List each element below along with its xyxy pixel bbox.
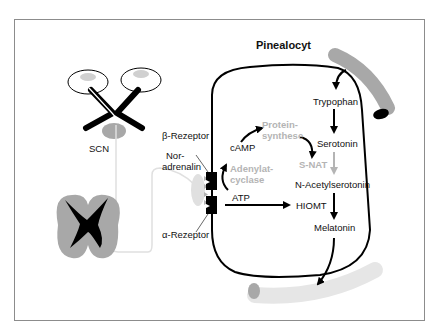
beta-receptor-label: β-Rezeptor [162, 130, 209, 141]
nerve-terminal-icon [191, 174, 205, 206]
proteinsynthese-label-2: synthese [262, 130, 303, 141]
tryptophan-label: Trypophan [313, 96, 358, 107]
spinal-cord-icon [57, 195, 120, 259]
melatonin-label: Melatonin [314, 222, 355, 233]
blood-vessel-bottom-icon [248, 270, 375, 299]
adenylatcyclase-label-1: Adenylat- [230, 163, 273, 174]
proteinsynthese-label-1: Protein- [262, 119, 298, 130]
optic-chiasm-icon [68, 68, 161, 139]
scn-label: SCN [89, 143, 109, 154]
pinealocyte-title: Pinealocyt [256, 40, 311, 51]
noradrenalin-label-2: adrenalin [162, 161, 201, 172]
n-acetylserotonin-label: N-Acetylserotonin [295, 179, 370, 190]
camp-label: cAMP [230, 142, 255, 153]
noradrenalin-label-1: Nor- [166, 150, 184, 161]
diagram-canvas: Pinealocyt SCN β-Rezeptor Nor- adrenalin… [0, 0, 439, 336]
snat-label: S-NAT [299, 159, 327, 170]
atp-label: ATP [232, 192, 250, 203]
alpha-receptor-label: α-Rezeptor [162, 229, 209, 240]
serotonin-label: Serotonin [317, 138, 358, 149]
adenylatcyclase-label-2: cyclase [230, 174, 264, 185]
diagram-graphics [0, 0, 439, 336]
hiomt-label: HIOMT [296, 200, 327, 211]
